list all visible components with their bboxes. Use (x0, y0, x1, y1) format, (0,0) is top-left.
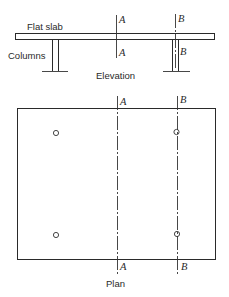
plan-view: A B A B Plan (18, 94, 216, 289)
column-marker-icon (174, 231, 179, 236)
elevation-section-b-top-label: B (178, 13, 185, 24)
elevation-title: Elevation (96, 70, 135, 81)
column-marker-icon (53, 130, 58, 135)
plan-section-b-top-label: B (180, 94, 187, 105)
plan-outline (18, 109, 216, 260)
elevation-section-a-bottom-label: A (118, 47, 126, 58)
column-marker-icon (174, 129, 179, 134)
column-marker-icon (53, 232, 58, 237)
columns-label: Columns (8, 50, 46, 61)
plan-title: Plan (106, 278, 125, 289)
plan-section-a-bottom-label: A (119, 261, 127, 272)
elevation-view: A A B B Flat slab Columns Elevation (8, 13, 215, 81)
left-column (42, 40, 68, 72)
flat-slab-label: Flat slab (27, 21, 63, 32)
elevation-section-b-bottom-label: B (180, 46, 187, 57)
elevation-section-a-top-label: A (118, 14, 126, 25)
plan-section-a-top-label: A (119, 96, 127, 107)
plan-section-b-bottom-label: B (181, 261, 188, 272)
flat-slab-diagram: A A B B Flat slab Columns Elevation A B … (0, 0, 229, 297)
flat-slab (16, 34, 215, 40)
